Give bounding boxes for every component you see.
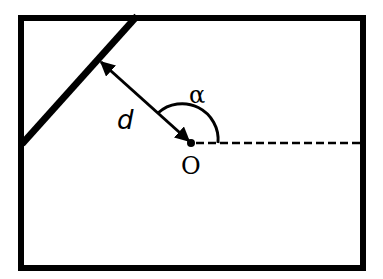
angle-arc xyxy=(158,104,218,143)
origin-point xyxy=(187,139,195,147)
angle-label: α xyxy=(189,81,205,109)
distance-arrow xyxy=(101,62,189,141)
distance-label: d xyxy=(117,105,134,135)
origin-label: O xyxy=(181,152,201,180)
line-parameter-diagram: d α O xyxy=(0,0,383,279)
